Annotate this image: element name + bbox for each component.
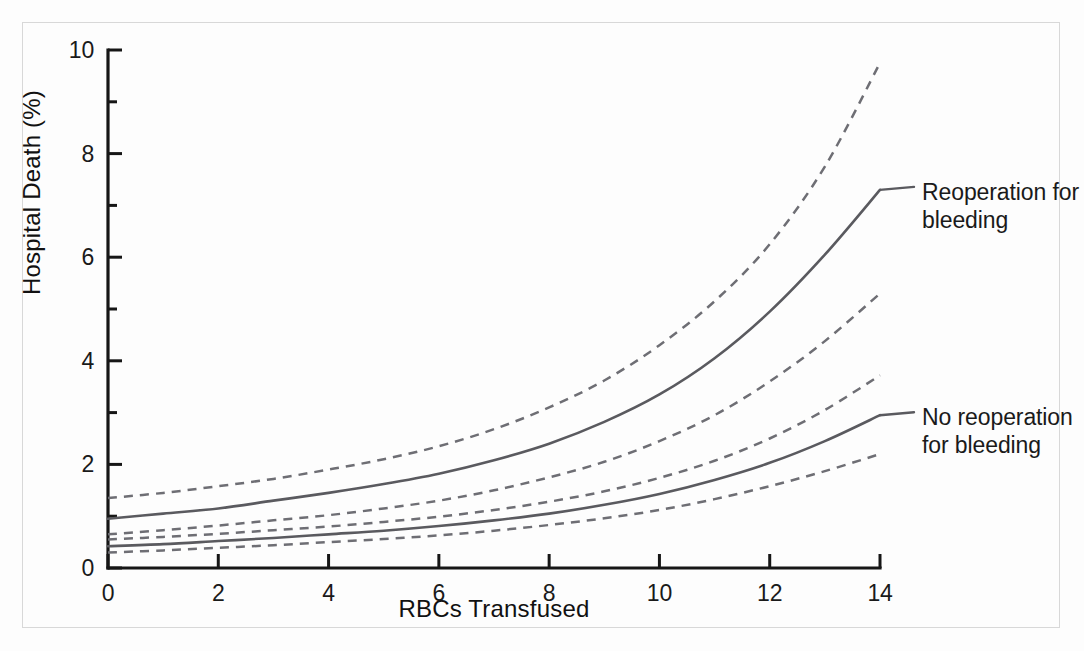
plot-canvas xyxy=(0,0,1084,651)
series-curve-3 xyxy=(108,375,880,539)
series-curve-2 xyxy=(108,293,880,534)
x-tick-label: 4 xyxy=(322,580,335,607)
y-tick-label: 4 xyxy=(26,347,94,374)
y-tick-label: 2 xyxy=(26,451,94,478)
y-tick-label: 0 xyxy=(26,555,94,582)
series-curve-5 xyxy=(108,454,880,552)
x-tick-label: 6 xyxy=(433,580,446,607)
leader-line-reoperation xyxy=(880,187,914,190)
x-tick-label: 10 xyxy=(647,580,672,607)
x-tick-label: 14 xyxy=(867,580,892,607)
leader-line-no-reoperation xyxy=(880,412,914,415)
x-tick-label: 0 xyxy=(102,580,115,607)
series-curve-4 xyxy=(108,415,880,546)
x-tick-label: 8 xyxy=(543,580,556,607)
y-tick-label: 10 xyxy=(26,37,94,64)
y-tick-label: 6 xyxy=(26,244,94,271)
series-annotation-reoperation: Reoperation for bleeding xyxy=(922,178,1079,234)
curves-group xyxy=(108,63,880,553)
y-tick-label: 8 xyxy=(26,140,94,167)
leader-lines-group xyxy=(880,187,914,415)
figure-panel: Hospital Death (%) RBCs Transfused 02468… xyxy=(0,0,1084,651)
x-tick-label: 12 xyxy=(757,580,782,607)
x-axis-title: RBCs Transfused xyxy=(398,595,589,623)
series-annotation-no-reoperation: No reoperation for bleeding xyxy=(922,403,1073,459)
series-curve-0 xyxy=(108,63,880,498)
series-curve-1 xyxy=(108,190,880,519)
x-tick-label: 2 xyxy=(212,580,225,607)
